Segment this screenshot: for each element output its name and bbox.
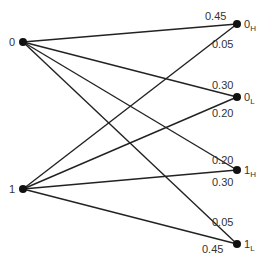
nodes xyxy=(19,20,241,248)
edges xyxy=(23,24,237,244)
prob-label-0-to-0H: 0.45 xyxy=(205,10,226,22)
prob-label-0-to-1H: 0.20 xyxy=(212,154,233,166)
edge-1-to-1L xyxy=(23,189,237,244)
edge-1-to-0H xyxy=(23,24,237,189)
output-node-0H xyxy=(233,20,241,28)
output-node-subscript: H xyxy=(250,170,256,179)
output-node-label-0H: 0H xyxy=(244,18,256,33)
edge-0-to-0L xyxy=(23,42,237,97)
output-node-subscript: L xyxy=(250,244,255,253)
output-node-subscript: L xyxy=(250,97,255,106)
prob-label-1-to-0H: 0.05 xyxy=(212,38,233,50)
output-node-label-1L: 1L xyxy=(244,238,255,253)
prob-label-1-to-1L: 0.45 xyxy=(202,243,223,255)
prob-label-1-to-1H: 0.30 xyxy=(212,176,233,188)
channel-transition-diagram: 0.450.300.200.050.050.200.300.45010H0L1H… xyxy=(0,0,266,266)
edge-1-to-0L xyxy=(23,97,237,189)
output-node-subscript: H xyxy=(250,24,256,33)
input-node-label-0: 0 xyxy=(9,36,15,48)
labels: 0.450.300.200.050.050.200.300.45010H0L1H… xyxy=(9,10,256,255)
prob-label-0-to-0L: 0.30 xyxy=(212,79,233,91)
input-node-label-1: 1 xyxy=(9,183,15,195)
prob-label-1-to-0L: 0.20 xyxy=(212,107,233,119)
input-node-1 xyxy=(19,185,27,193)
edge-1-to-1H xyxy=(23,170,237,189)
output-node-label-0L: 0L xyxy=(244,91,255,106)
prob-label-0-to-1L: 0.05 xyxy=(212,216,233,228)
output-node-0L xyxy=(233,93,241,101)
output-node-1L xyxy=(233,240,241,248)
input-node-0 xyxy=(19,38,27,46)
output-node-label-1H: 1H xyxy=(244,164,256,179)
edge-0-to-0H xyxy=(23,24,237,42)
output-node-1H xyxy=(233,166,241,174)
